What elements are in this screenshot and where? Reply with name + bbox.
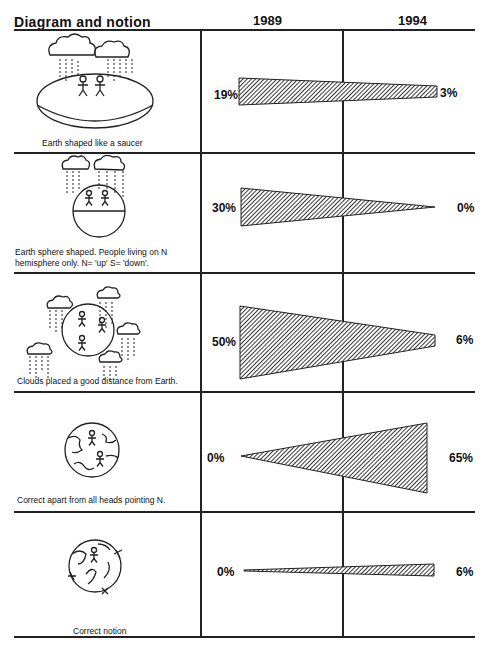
trend-wedge — [244, 563, 438, 579]
value-1994: 65% — [449, 451, 473, 465]
row-divider — [14, 152, 475, 154]
value-1989: 0% — [217, 565, 234, 579]
value-1994: 6% — [456, 333, 473, 347]
value-1989: 30% — [212, 201, 236, 215]
row-divider — [14, 391, 475, 393]
header-rule — [14, 29, 475, 31]
value-1989: 0% — [207, 451, 224, 465]
caption-clouds-distance: Clouds placed a good distance from Earth… — [17, 376, 178, 387]
value-1994: 6% — [456, 565, 473, 579]
correct-globe-illustration — [64, 538, 126, 598]
trend-wedge — [241, 188, 441, 230]
column-divider-left — [200, 29, 202, 637]
column-header-1994: 1994 — [398, 13, 427, 28]
trend-wedge — [241, 423, 431, 495]
row-divider — [14, 272, 475, 274]
caption-saucer: Earth shaped like a saucer — [42, 138, 143, 149]
value-1989: 50% — [212, 335, 236, 349]
column-header-diagram: Diagram and notion — [14, 14, 151, 30]
row-divider — [14, 511, 475, 513]
sphere-north-illustration — [55, 155, 135, 247]
caption-sphere-north-line2: hemisphere only. N= 'up' S= 'down'. — [15, 258, 149, 269]
value-1989: 19% — [214, 88, 238, 102]
clouds-distance-illustration — [22, 290, 152, 385]
column-header-1989: 1989 — [253, 13, 282, 28]
trend-wedge — [240, 306, 440, 382]
saucer-earth-illustration — [20, 35, 170, 135]
value-1994: 0% — [457, 201, 474, 215]
caption-correct-notion: Correct notion — [73, 626, 126, 637]
caption-sphere-north-line1: Earth sphere shaped. People living on N — [15, 247, 167, 258]
caption-heads-north: Correct apart from all heads pointing N. — [17, 495, 165, 506]
heads-north-globe-illustration — [62, 420, 124, 482]
value-1994: 3% — [440, 86, 457, 100]
trend-wedge — [239, 78, 439, 108]
